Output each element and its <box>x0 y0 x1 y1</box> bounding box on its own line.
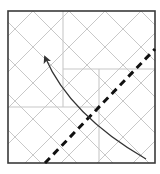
origami-diagram <box>0 0 160 174</box>
crease-line <box>157 0 160 174</box>
